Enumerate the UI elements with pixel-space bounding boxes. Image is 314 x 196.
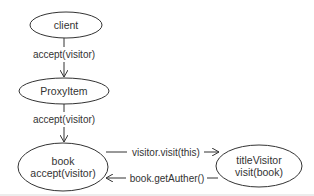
book-label-line-2: accept(visitor) bbox=[18, 167, 108, 179]
proxyitem-label: ProxyItem bbox=[19, 85, 109, 97]
titlevisitor-label: titleVisitor visit(book) bbox=[216, 154, 302, 178]
book-label-line-1: book bbox=[18, 155, 108, 167]
titlevisitor-label-line-2: visit(book) bbox=[216, 166, 302, 178]
edge-label-proxy-book: accept(visitor) bbox=[24, 114, 104, 125]
client-label: client bbox=[30, 19, 102, 31]
edge-label-book-visitor: visitor.visit(this) bbox=[128, 147, 204, 158]
edge-label-visitor-book: book.getAuther() bbox=[128, 173, 206, 184]
proxyitem-label-line: ProxyItem bbox=[40, 85, 87, 97]
edge-label-client-proxy: accept(visitor) bbox=[24, 49, 104, 60]
bottom-border bbox=[0, 194, 314, 196]
client-label-line: client bbox=[54, 19, 79, 31]
book-label: book accept(visitor) bbox=[18, 155, 108, 179]
titlevisitor-label-line-1: titleVisitor bbox=[216, 154, 302, 166]
